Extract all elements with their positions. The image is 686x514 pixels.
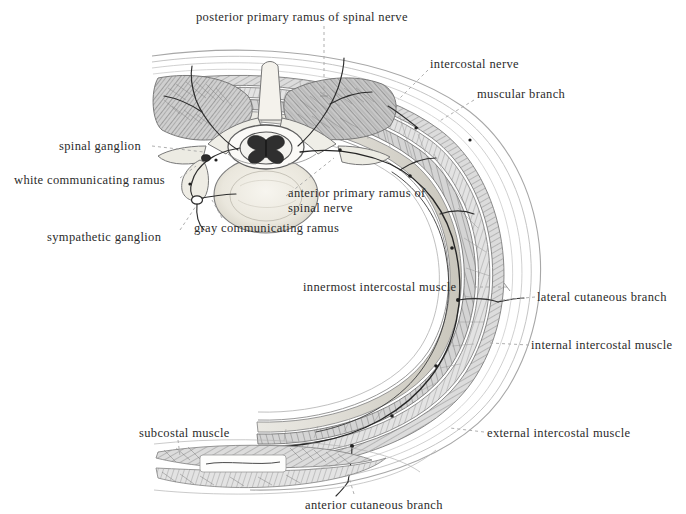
label-anterior-primary-ramus: anterior primary ramus of spinal nerve bbox=[288, 186, 448, 216]
label-internal-intercostal-muscle: internal intercostal muscle bbox=[531, 338, 672, 353]
label-subcostal-muscle: subcostal muscle bbox=[139, 426, 230, 441]
spinal-ganglion-node bbox=[201, 155, 210, 162]
label-lateral-cutaneous-branch: lateral cutaneous branch bbox=[537, 290, 667, 305]
label-muscular-branch: muscular branch bbox=[477, 87, 565, 102]
sympathetic-ganglion-node bbox=[192, 196, 203, 204]
label-intercostal-nerve: intercostal nerve bbox=[430, 57, 519, 72]
leader-external-ic bbox=[450, 428, 484, 432]
label-spinal-ganglion: spinal ganglion bbox=[59, 139, 141, 154]
subcostal-muscle-group bbox=[154, 440, 436, 494]
label-white-communicating-ramus: white communicating ramus bbox=[14, 173, 165, 188]
label-external-intercostal-muscle: external intercostal muscle bbox=[487, 426, 630, 441]
label-gray-communicating-ramus: gray communicating ramus bbox=[194, 221, 339, 236]
label-sympathetic-ganglion: sympathetic ganglion bbox=[47, 230, 161, 245]
label-innermost-intercostal-muscle: innermost intercostal muscle bbox=[303, 280, 457, 295]
spinous-process bbox=[258, 62, 282, 121]
label-anterior-primary-line1: anterior primary ramus of bbox=[288, 186, 426, 200]
label-posterior-primary-ramus: posterior primary ramus of spinal nerve bbox=[196, 10, 408, 25]
anatomy-figure-page: posterior primary ramus of spinal nerve … bbox=[0, 0, 686, 514]
label-anterior-cutaneous-branch: anterior cutaneous branch bbox=[305, 498, 443, 513]
label-anterior-primary-line2: spinal nerve bbox=[288, 201, 353, 215]
